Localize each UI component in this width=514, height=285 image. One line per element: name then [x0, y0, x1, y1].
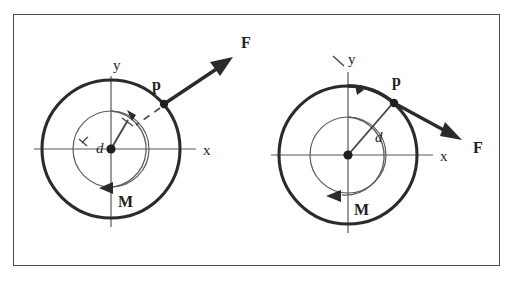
- left-point-p-label: p: [152, 76, 161, 94]
- left-point-p-dot: [160, 100, 168, 108]
- right-distance-label: d: [375, 129, 383, 145]
- left-force-arrowhead: [210, 57, 233, 76]
- right-moment-label: M: [354, 201, 369, 218]
- left-force-label: F: [241, 34, 251, 51]
- right-y-axis-label: y: [348, 51, 356, 67]
- right-d-line: [348, 103, 393, 155]
- left-dashed-extension: [136, 108, 160, 125]
- right-moment-arrowhead: [326, 190, 341, 202]
- right-point-p-dot: [390, 99, 398, 107]
- right-force-label: F: [473, 139, 483, 156]
- figure-canvas: x y p F M d: [0, 0, 514, 285]
- right-point-p-label: p: [392, 72, 401, 90]
- left-moment-label: M: [118, 193, 133, 210]
- right-angle-tick: [333, 56, 344, 66]
- mechanics-diagram-svg: x y p F M d: [0, 0, 514, 285]
- left-force-vector: [164, 64, 224, 104]
- right-force-arrowhead: [440, 122, 462, 140]
- left-moment-arrowhead: [99, 182, 113, 194]
- left-x-axis-label: x: [203, 142, 211, 158]
- left-distance-label: d: [96, 140, 104, 156]
- left-y-axis-label: y: [113, 57, 121, 73]
- left-diagram: x y p F M d: [34, 34, 251, 227]
- right-center-dot: [343, 150, 352, 159]
- right-x-axis-label: x: [440, 148, 448, 164]
- left-center-dot: [106, 144, 115, 153]
- left-angle-tick: [79, 139, 87, 146]
- right-diagram: x y p F M d: [271, 51, 483, 233]
- left-d-line: [111, 120, 128, 149]
- right-outer-arc-highlight: [348, 86, 394, 103]
